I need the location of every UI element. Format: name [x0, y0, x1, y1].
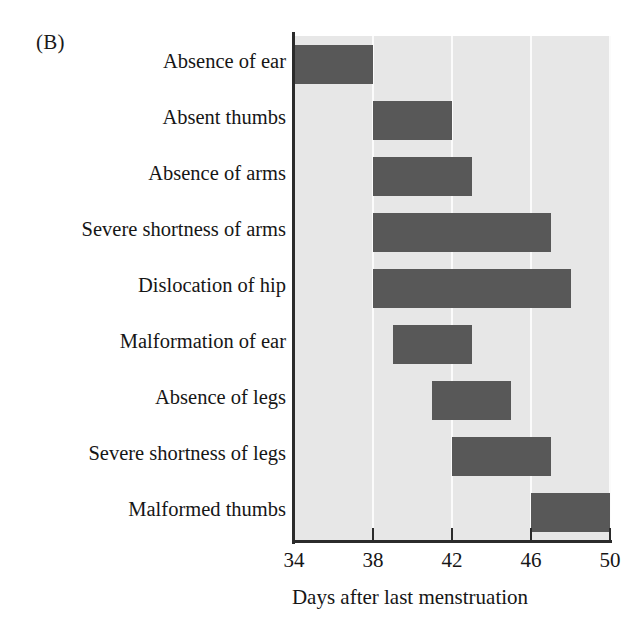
y-axis-line	[292, 32, 295, 544]
x-tick-label-38: 38	[343, 548, 403, 573]
category-label-absent-thumbs: Absent thumbs	[6, 106, 286, 129]
category-label-list: Absence of earAbsent thumbsAbsence of ar…	[0, 36, 286, 540]
bar-severe-shortness-of-arms	[373, 213, 551, 252]
bar-absent-thumbs	[373, 101, 452, 140]
x-tick-label-42: 42	[422, 548, 482, 573]
bar-severe-shortness-of-legs	[452, 437, 551, 476]
bar-malformed-thumbs	[531, 493, 610, 532]
gridline-50	[609, 36, 611, 540]
category-label-severe-shortness-of-legs: Severe shortness of legs	[6, 442, 286, 465]
category-label-absence-of-legs: Absence of legs	[6, 386, 286, 409]
bar-malformation-of-ear	[393, 325, 472, 364]
chart-plot-area	[294, 36, 610, 540]
bar-absence-of-arms	[373, 157, 472, 196]
tick-mark-42	[451, 528, 453, 543]
tick-mark-46	[530, 528, 532, 543]
category-label-absence-of-ear: Absence of ear	[6, 50, 286, 73]
category-label-dislocation-of-hip: Dislocation of hip	[6, 274, 286, 297]
x-tick-label-46: 46	[501, 548, 561, 573]
category-label-absence-of-arms: Absence of arms	[6, 162, 286, 185]
x-axis-title: Days after last menstruation	[200, 585, 620, 610]
category-label-malformation-of-ear: Malformation of ear	[6, 330, 286, 353]
x-tick-label-34: 34	[264, 548, 324, 573]
tick-mark-38	[372, 528, 374, 543]
tick-mark-34	[293, 528, 295, 543]
tick-mark-50	[609, 528, 611, 543]
bar-absence-of-legs	[432, 381, 511, 420]
category-label-severe-shortness-of-arms: Severe shortness of arms	[6, 218, 286, 241]
x-tick-label-50: 50	[580, 548, 640, 573]
category-label-malformed-thumbs: Malformed thumbs	[6, 498, 286, 521]
bar-dislocation-of-hip	[373, 269, 571, 308]
bar-absence-of-ear	[294, 45, 373, 84]
